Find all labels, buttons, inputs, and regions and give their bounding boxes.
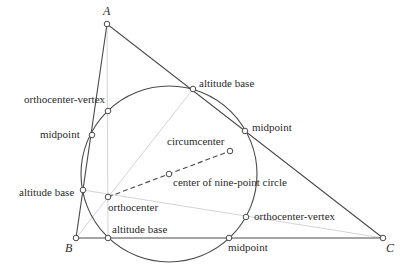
- vertex-b-point: [73, 235, 79, 241]
- altitude-base-bc-point: [105, 235, 111, 241]
- nine-point-center-label: center of nine-point circle: [173, 176, 287, 188]
- vertex-a-label: A: [102, 4, 111, 18]
- vertex-c-point: [380, 235, 386, 241]
- midpoint-bc-point: [226, 235, 232, 241]
- altitude-base-ab-label: altitude base: [19, 186, 74, 198]
- midpoint-ac-label: midpoint: [252, 121, 292, 133]
- orthocenter-vertex-right-point: [243, 214, 249, 220]
- orthocenter-point: [105, 194, 111, 200]
- altitude-base-ac-point: [190, 86, 196, 92]
- altitude-from-b: [76, 89, 193, 238]
- orthocenter-label: orthocenter: [108, 201, 158, 213]
- circumcenter-label: circumcenter: [167, 135, 225, 147]
- altitude-base-ab-point: [80, 187, 86, 193]
- midpoint-ab-point: [89, 132, 95, 138]
- altitude-base-bc-label: altitude base: [112, 223, 167, 235]
- nine-point-center-point: [166, 171, 172, 177]
- altitude-base-ac-label: altitude base: [199, 77, 254, 89]
- orthocenter-vertex-top-point: [105, 108, 111, 114]
- vertex-a-point: [104, 21, 110, 27]
- midpoint-ab-label: midpoint: [40, 128, 80, 140]
- orthocenter-vertex-top-label: orthocenter-vertex: [24, 93, 106, 105]
- vertex-b-label: B: [65, 241, 73, 255]
- vertex-c-label: C: [386, 241, 395, 255]
- circumcenter-point: [227, 148, 233, 154]
- nine-point-circle-diagram: A B C altitude base midpoint orthocenter…: [0, 0, 403, 264]
- midpoint-bc-label: midpoint: [228, 241, 268, 253]
- orthocenter-vertex-right-label: orthocenter-vertex: [254, 210, 336, 222]
- midpoint-ac-point: [242, 128, 248, 134]
